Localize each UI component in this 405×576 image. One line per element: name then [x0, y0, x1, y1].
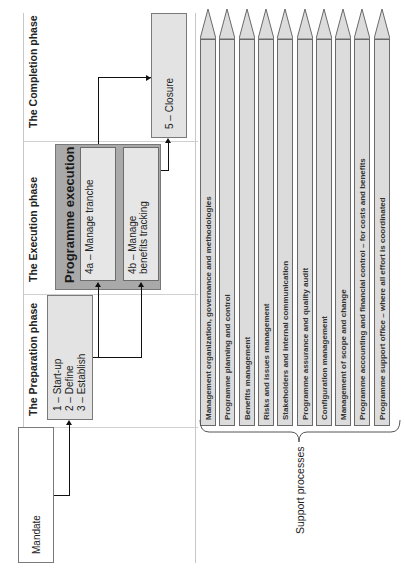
diagram-bottom-line [195, 428, 196, 563]
closure-box: 5 – Closure [151, 13, 187, 138]
manage-benefits-label: 4b – Manage benefits tracking [127, 189, 149, 274]
preparation-box: 1 – Start-up 2 – Define 3 – Establish [47, 295, 93, 420]
connector-4a-up [98, 77, 99, 143]
support-process-item: Stakeholders and internal communication [277, 39, 293, 426]
support-process-item: Risks and issues management [258, 39, 274, 426]
mandate-box: Mandate [18, 427, 54, 563]
support-processes-label: Support processes [294, 446, 306, 534]
connector-prep-4a-horizontal [98, 285, 99, 358]
manage-tranche-label: 4a – Manage tranche [84, 179, 95, 274]
arrow-into-closure-bottom [165, 138, 171, 143]
support-area-top-line [195, 13, 196, 428]
prep-step-startup: 1 – Start-up [52, 296, 64, 411]
support-process-item: Programme accounting and financial contr… [354, 39, 370, 426]
manage-tranche-box: 4a – Manage tranche [80, 147, 116, 281]
support-process-item: Programme planning and control [219, 39, 235, 426]
closure-label: 5 – Closure [164, 78, 175, 129]
prep-step-establish: 3 – Establish [76, 296, 88, 411]
support-processes-brace [195, 416, 405, 446]
connector-mandate-out [54, 495, 69, 496]
connector-mandate-horizontal [69, 423, 70, 496]
connector-prep-4b-vertical [93, 357, 141, 358]
manage-benefits-box: 4b – Manage benefits tracking [123, 147, 159, 281]
support-process-item: Configuration management [316, 39, 332, 426]
programme-execution-container: Programme execution 4a – Manage tranche … [55, 144, 161, 290]
support-process-item: Benefits management [239, 39, 255, 426]
support-process-item: Programme support office – where all eff… [374, 39, 390, 426]
support-process-item: Management of scope and change [335, 39, 351, 426]
programme-execution-title: Programme execution [62, 146, 77, 283]
arrow-into-manage-benefits [138, 282, 144, 287]
phase-title-execution: The Execution phase [27, 177, 39, 282]
arrow-into-closure-top [146, 75, 151, 81]
connector-4b-to-closure [168, 141, 169, 171]
programme-lifecycle-diagram: The Preparation phase The Execution phas… [0, 0, 405, 576]
support-process-item: Management organization, governance and … [200, 39, 216, 426]
prep-step-define: 2 – Define [64, 296, 76, 411]
arrow-into-preparation [66, 420, 72, 425]
phase-title-completion: The Completion phase [27, 15, 39, 128]
mandate-label: Mandate [31, 515, 42, 554]
connector-4a-to-closure-h [98, 77, 151, 78]
connector-4b-out [161, 170, 168, 171]
phase-title-preparation: The Preparation phase [27, 303, 39, 416]
connector-prep-4b-horizontal [141, 285, 142, 358]
support-process-item: Programme assurance and quality audit [297, 39, 313, 426]
phase-divider-exec-completion [23, 141, 198, 142]
arrow-into-manage-tranche [95, 282, 101, 287]
